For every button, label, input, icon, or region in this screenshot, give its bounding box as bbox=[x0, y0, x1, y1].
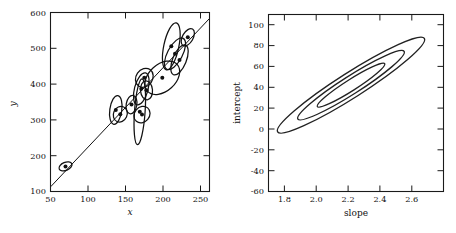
scatter-y-axis-label: y bbox=[8, 101, 18, 108]
contour-xticklabel: 2.4 bbox=[373, 194, 386, 204]
data-point bbox=[118, 112, 122, 116]
contour-level-3sigma bbox=[271, 28, 431, 143]
scatter-yticklabel: 200 bbox=[30, 151, 46, 161]
contour-x-axis-label: slope bbox=[344, 208, 368, 218]
contour-xticklabel: 2.2 bbox=[342, 194, 355, 204]
data-point bbox=[160, 76, 164, 80]
scatter-xticklabel: 250 bbox=[193, 194, 209, 204]
contour-yticklabel: -40 bbox=[251, 166, 264, 176]
contour-xticklabel: 2.6 bbox=[405, 194, 418, 204]
contour-level-2sigma bbox=[293, 44, 409, 127]
contour-yticklabel: 80 bbox=[254, 40, 264, 50]
contour-yticklabel: 100 bbox=[248, 20, 264, 30]
data-point bbox=[64, 164, 68, 168]
scatter-xticklabel: 100 bbox=[80, 194, 96, 204]
contour-yticklabel: -60 bbox=[251, 186, 264, 196]
contour-xticklabel: 2.0 bbox=[310, 194, 323, 204]
contour-yticklabel: 0 bbox=[259, 124, 264, 134]
scatter-xticklabel: 200 bbox=[155, 194, 171, 204]
data-point bbox=[130, 103, 134, 107]
contour-yticklabel: -20 bbox=[251, 145, 264, 155]
contour-svg: 1.8 2.0 2.2 2.4 2.6 -60 -40 -20 0 20 40 … bbox=[228, 0, 456, 233]
scatter-xticklabel: 50 bbox=[45, 194, 55, 204]
contour-yticklabel: 20 bbox=[254, 103, 264, 113]
contour-yticklabel: 60 bbox=[254, 61, 264, 71]
scatter-x-axis-label: x bbox=[127, 207, 132, 217]
contour-panel: 1.8 2.0 2.2 2.4 2.6 -60 -40 -20 0 20 40 … bbox=[228, 0, 456, 233]
scatter-yticklabel: 500 bbox=[30, 43, 46, 53]
contour-yticklabel: 40 bbox=[254, 82, 264, 92]
scatter-yticklabel: 400 bbox=[30, 79, 46, 89]
scatter-panel: 50 100 150 200 250 100 200 300 400 500 6… bbox=[0, 0, 228, 233]
contour-plot-frame bbox=[269, 15, 444, 192]
scatter-yticklabel: 100 bbox=[30, 186, 46, 196]
error-ellipse-group bbox=[58, 21, 197, 172]
scatter-svg: 50 100 150 200 250 100 200 300 400 500 6… bbox=[0, 0, 228, 233]
contour-y-ticks bbox=[269, 25, 444, 192]
contour-y-axis-label: intercept bbox=[232, 82, 242, 124]
figure-root: 50 100 150 200 250 100 200 300 400 500 6… bbox=[0, 0, 456, 233]
contour-level-1sigma bbox=[314, 59, 387, 111]
scatter-yticklabel: 600 bbox=[30, 8, 46, 18]
data-point bbox=[140, 113, 144, 117]
confidence-contours bbox=[271, 28, 431, 143]
data-point bbox=[186, 35, 190, 39]
contour-xticklabel: 1.8 bbox=[278, 194, 291, 204]
data-point bbox=[178, 58, 182, 62]
scatter-xticklabel: 150 bbox=[118, 194, 134, 204]
scatter-yticklabel: 300 bbox=[30, 115, 46, 125]
